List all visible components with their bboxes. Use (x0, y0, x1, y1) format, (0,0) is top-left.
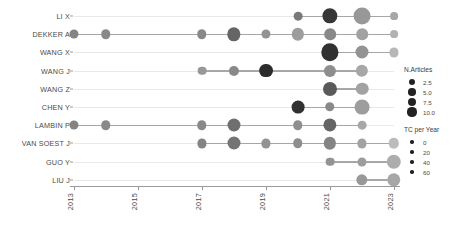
legend-dot (409, 79, 415, 85)
data-point (357, 139, 366, 148)
data-point (389, 138, 399, 148)
legend-swatch (404, 150, 420, 153)
legend-entry-n-articles-5.0: 5.0 (404, 87, 466, 97)
data-point (324, 137, 336, 149)
legend-dot (410, 150, 413, 153)
legend-swatch (404, 160, 420, 163)
data-point (356, 174, 367, 185)
x-axis-label-2021: 2021 (322, 193, 331, 210)
data-point (293, 139, 302, 148)
legend-dot (410, 160, 413, 163)
legend-tc-per-year-entries: 0204060 (404, 137, 466, 177)
legend-entry-n-articles-10.0: 10.0 (404, 107, 466, 117)
legend-entry-label: 0 (423, 139, 426, 146)
legend-swatch (404, 88, 420, 95)
x-axis-label-2023: 2023 (386, 193, 395, 210)
legend-entry-tc-0: 0 (404, 137, 466, 147)
legend-entry-label: 60 (423, 169, 430, 176)
data-point (198, 66, 207, 75)
plot-area (0, 0, 400, 190)
legend-dot (410, 170, 413, 173)
legend-entry-label: 20 (423, 149, 430, 156)
series-connector-line (74, 125, 362, 127)
legend-dot (408, 88, 415, 95)
data-point (69, 121, 78, 130)
data-point (323, 119, 336, 132)
x-axis-tick (202, 186, 203, 190)
x-axis-tick (394, 186, 395, 190)
legend-tc-per-year: TC per Year 0204060 (404, 126, 466, 177)
legend-entry-n-articles-2.5: 2.5 (404, 77, 466, 87)
data-point (229, 66, 239, 76)
x-axis-label-2017: 2017 (194, 193, 203, 210)
legend-panel: N.Articles 2.55.07.510.0 TC per Year 020… (404, 66, 466, 177)
legend-entry-label: 5.0 (423, 89, 432, 96)
row-guideline (74, 180, 394, 181)
data-point (101, 29, 110, 38)
x-axis-tick (138, 186, 139, 190)
legend-swatch (404, 170, 420, 173)
data-point (292, 28, 304, 40)
data-point (354, 8, 371, 25)
legend-swatch (404, 140, 420, 143)
x-axis-tick (266, 186, 267, 190)
data-point (259, 64, 273, 78)
data-point (355, 100, 370, 115)
data-point (261, 30, 270, 39)
legend-entry-label: 2.5 (423, 79, 432, 86)
data-point (324, 65, 336, 77)
data-point (356, 83, 369, 96)
data-point (321, 44, 338, 61)
data-point (69, 30, 78, 39)
legend-entry-label: 10.0 (423, 109, 435, 116)
author-production-over-time-chart: LI XDEKKER AWANG XWANG JWANG ZCHEN YLAMB… (0, 0, 466, 226)
data-point (101, 120, 110, 129)
legend-dot (410, 140, 413, 143)
data-point (326, 157, 335, 166)
data-point (293, 120, 302, 129)
legend-n-articles-title: N.Articles (404, 66, 466, 73)
legend-tc-per-year-title: TC per Year (404, 126, 466, 133)
data-point (197, 139, 206, 148)
legend-dot (408, 98, 416, 106)
data-point (356, 28, 368, 40)
data-point (197, 29, 206, 38)
data-point (294, 12, 303, 21)
series-connector-line (298, 16, 394, 18)
legend-entry-label: 40 (423, 159, 430, 166)
legend-n-articles: N.Articles 2.55.07.510.0 (404, 66, 466, 117)
legend-swatch (404, 107, 420, 116)
legend-entry-tc-60: 60 (404, 167, 466, 177)
x-axis-tick (74, 186, 75, 190)
data-point (227, 28, 240, 41)
legend-entry-n-articles-7.5: 7.5 (404, 97, 466, 107)
data-point (355, 46, 368, 59)
data-point (227, 137, 240, 150)
data-point (387, 173, 400, 186)
data-point (292, 101, 305, 114)
x-axis-label-2015: 2015 (130, 193, 139, 210)
data-point (387, 154, 401, 168)
legend-entry-label: 7.5 (423, 99, 432, 106)
x-axis-tick (330, 186, 331, 190)
legend-swatch (404, 98, 420, 106)
data-point (197, 120, 206, 129)
x-axis-line (70, 186, 400, 187)
data-point (325, 102, 334, 111)
data-point (261, 139, 270, 148)
series-connector-line (202, 70, 362, 72)
data-point (324, 28, 336, 40)
x-axis-label-2019: 2019 (258, 193, 267, 210)
data-point (323, 82, 337, 96)
data-point (322, 8, 337, 23)
data-point (390, 12, 398, 20)
data-point (357, 157, 366, 166)
legend-swatch (404, 79, 420, 85)
data-point (390, 30, 398, 38)
data-point (358, 121, 367, 130)
legend-entry-tc-20: 20 (404, 147, 466, 157)
legend-n-articles-entries: 2.55.07.510.0 (404, 77, 466, 117)
x-axis-label-2013: 2013 (66, 193, 75, 210)
data-point (227, 119, 240, 132)
legend-entry-tc-40: 40 (404, 157, 466, 167)
